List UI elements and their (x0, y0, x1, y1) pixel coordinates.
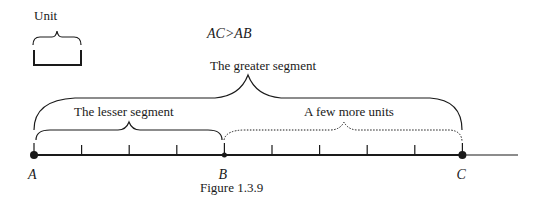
point-label-a: A (27, 167, 37, 182)
unit-brace (33, 31, 81, 45)
more-units-label: A few more units (304, 104, 394, 119)
figure-diagram: Unit AC>AB The greater segment The lesse… (0, 0, 544, 209)
more-units-brace (224, 122, 462, 142)
lesser-segment-brace (36, 122, 222, 140)
point-c (458, 151, 466, 159)
greater-segment-brace (34, 75, 462, 130)
lesser-segment-label: The lesser segment (74, 104, 174, 119)
greater-segment-label: The greater segment (210, 58, 317, 73)
inequality-label: AC>AB (206, 26, 252, 41)
unit-segment (34, 50, 81, 65)
point-b (222, 153, 227, 158)
figure-caption: Figure 1.3.9 (200, 180, 263, 195)
unit-sample: Unit (33, 8, 81, 65)
point-label-c: C (456, 167, 466, 182)
point-a (30, 151, 38, 159)
unit-label: Unit (34, 8, 58, 23)
